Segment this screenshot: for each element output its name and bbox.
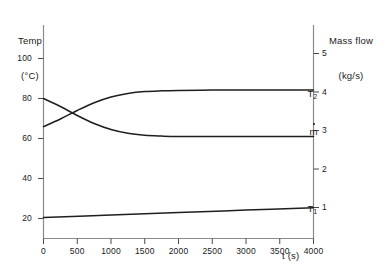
curve-T2 [44,99,314,137]
ytick-label-right-1: 1 [322,203,342,212]
overdot-icon [313,123,315,125]
xtick-label-0: 0 [27,247,61,256]
curve-T1 [44,208,314,218]
left-axis-title-line2: (°C) [4,70,56,82]
right-axis-title-line2: (kg/s) [316,70,386,82]
data-curves [44,90,314,217]
curve-mdot [44,90,314,127]
xtick-label-4000: 4000 [297,247,331,256]
right-axis-title-line1: Mass flow [316,35,386,47]
xtick-label-2500: 2500 [195,247,229,256]
xtick-label-3500: 3500 [263,247,297,256]
xtick-label-2000: 2000 [162,247,196,256]
curve-label-mdot: m [299,117,317,147]
left-axis-title-line1: Temp [4,35,56,47]
xtick-label-1500: 1500 [128,247,162,256]
ytick-label-right-3: 3 [322,126,342,135]
curve-label-t1-sub: 1 [313,208,317,215]
curve-label-t2-sub: 2 [313,93,317,100]
ytick-label-right-5: 5 [322,49,342,58]
bottom-axis-ticks [44,239,314,245]
ytick-label-left-60: 60 [4,134,32,143]
curve-label-t2: T2 [297,79,317,110]
curve-label-t1: T1 [297,194,317,225]
ytick-label-right-4: 4 [322,88,342,97]
ytick-label-left-40: 40 [4,174,32,183]
ytick-label-left-80: 80 [4,94,32,103]
xtick-label-1000: 1000 [94,247,128,256]
ytick-label-left-100: 100 [4,54,32,63]
curve-label-mdot-text: m [310,126,318,137]
xtick-label-3000: 3000 [229,247,263,256]
curve-label-mdot-glyph: m [310,127,318,137]
chart-figure: Temp (°C) Mass flow (kg/s) t (s) 100 80 … [0,0,388,276]
ytick-label-right-2: 2 [322,165,342,174]
xtick-label-500: 500 [60,247,94,256]
ytick-label-left-20: 20 [4,214,32,223]
